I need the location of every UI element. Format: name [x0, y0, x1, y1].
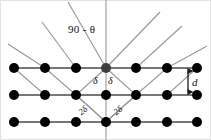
atom — [131, 90, 141, 100]
atom — [192, 63, 202, 73]
atom — [40, 63, 50, 73]
atom — [71, 63, 81, 73]
atom — [101, 90, 111, 100]
atom — [131, 63, 141, 73]
atom — [162, 117, 172, 127]
atom — [192, 90, 202, 100]
diagram-canvas — [0, 0, 211, 140]
atom — [162, 63, 172, 73]
incidence-angle-label: 90 - θ — [68, 24, 95, 35]
atom — [101, 117, 111, 127]
atom — [9, 63, 19, 73]
atom — [9, 90, 19, 100]
atom — [71, 90, 81, 100]
interplanar-spacing-label: d — [192, 77, 198, 88]
atom — [71, 117, 81, 127]
atom — [9, 117, 19, 127]
atom-scattering-center — [101, 63, 111, 73]
delta-right-label: δ — [108, 76, 113, 86]
atom — [40, 117, 50, 127]
delta-left-label: δ — [93, 76, 98, 86]
atom — [162, 90, 172, 100]
bragg-diffraction-diagram: 90 - θ δ δ 2δ 2δ d — [0, 0, 211, 140]
atom — [131, 117, 141, 127]
atom — [40, 90, 50, 100]
atom — [192, 117, 202, 127]
